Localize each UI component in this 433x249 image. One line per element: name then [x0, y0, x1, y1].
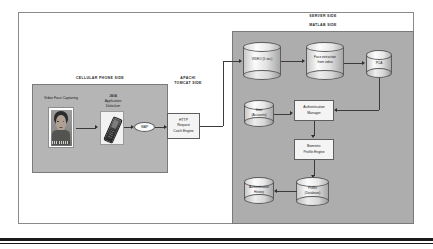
cellular-phone-side-caption: CELLULAR PHONE SIDE: [40, 76, 160, 81]
authentication-manager-box: Authentication Manager: [294, 100, 334, 121]
biometric-profile-engine-box: Biometric Profile Engine: [294, 139, 334, 160]
arrowhead-user-to-auth: [290, 111, 293, 115]
connector-extraction-to-pca: [344, 63, 363, 64]
server-side-caption: SERVER SIDE: [268, 14, 378, 19]
connector-user-to-auth: [274, 114, 291, 115]
video-database-cylinder: VIDEO (5 sec): [243, 42, 281, 80]
apachi-tomcat-side-caption: APACHI TOMCAT SIDE: [164, 76, 212, 87]
face-extraction-label: Face extraction from video: [306, 55, 344, 65]
arrowhead-pca-to-auth: [334, 108, 337, 112]
connector-pca-to-auth: [337, 110, 379, 111]
connector-pca-down: [379, 78, 380, 110]
authentication-history-cylinder: Authentication History: [244, 177, 274, 204]
connector-video-to-extraction: [281, 61, 303, 62]
user-accounts-cylinder: User (Accounts): [244, 100, 274, 127]
connector-riser-vertical: [223, 61, 224, 126]
mobile-handset-icon: [103, 116, 123, 144]
pca-cylinder: PCA: [366, 50, 392, 78]
connector-photo-to-java: [76, 128, 96, 129]
arrowhead-to-pca: [362, 61, 365, 65]
pca-label: PCA: [366, 61, 392, 66]
java-application-tile: [100, 111, 124, 145]
face-extraction-cylinder: Face extraction from video: [306, 42, 344, 80]
connector-auth-to-bio: [314, 121, 315, 136]
profile-database-cylinder: Profile (Database): [296, 177, 329, 206]
connector-riser-to-video-db: [223, 61, 241, 62]
connector-http-to-riser: [200, 126, 223, 127]
page-bottom-rule-thin: [0, 243, 433, 244]
user-accounts-label: User (Accounts): [244, 108, 274, 118]
page-bottom-rule: [0, 238, 433, 241]
profile-database-label: Profile (Database): [296, 186, 329, 196]
diagram-canvas: SERVER SIDE MATLAB SIDE CELLULAR PHONE S…: [0, 0, 433, 249]
wap-node: WAP: [134, 122, 155, 132]
video-database-label: VIDEO (5 sec): [243, 57, 281, 62]
java-application-label: JAVA Application Doloclum: [96, 94, 130, 109]
arrowhead-to-video-db: [239, 59, 242, 63]
http-request-catch-engine-box: HTTP Request Catch Engine: [167, 113, 200, 139]
arrowhead-auth-to-bio: [311, 135, 315, 138]
arrowhead-photo-to-java: [95, 125, 98, 129]
authentication-history-label: Authentication History: [244, 185, 274, 195]
video-face-capturing-label: Video Face Capturing: [30, 96, 92, 100]
arrowhead-to-extraction: [302, 59, 305, 63]
connector-profile-to-history: [277, 191, 297, 192]
captured-face-photo: [48, 107, 74, 148]
arrowhead-profile-to-history: [274, 189, 277, 193]
connector-bio-to-profile: [314, 160, 315, 176]
matlab-side-caption: MATLAB SIDE: [268, 23, 378, 28]
